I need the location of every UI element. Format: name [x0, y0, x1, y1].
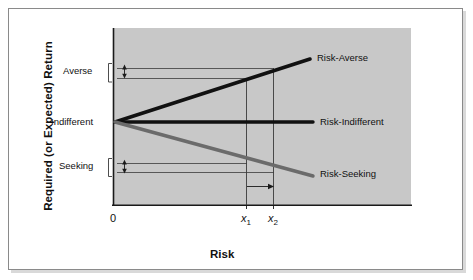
series-label-risk-indifferent: Risk-Indifferent — [320, 116, 384, 127]
x-tick-label-x2: x2 — [268, 212, 278, 227]
figure-root: Required (or Expected) Return — [0, 0, 473, 280]
x-tick-label-x1: x1 — [241, 212, 251, 227]
side-label-indifferent: Indifferent — [51, 116, 93, 127]
side-label-seeking: Seeking — [59, 160, 93, 171]
chart-svg — [0, 0, 473, 280]
seeking-bracket — [109, 159, 113, 177]
plot-area-wrapper — [0, 0, 473, 280]
x-tick-label-origin: 0 — [110, 212, 116, 224]
side-label-averse: Averse — [63, 65, 92, 76]
series-label-risk-averse: Risk-Averse — [317, 52, 368, 63]
averse-bracket — [109, 64, 113, 83]
series-label-risk-seeking: Risk-Seeking — [320, 168, 376, 179]
